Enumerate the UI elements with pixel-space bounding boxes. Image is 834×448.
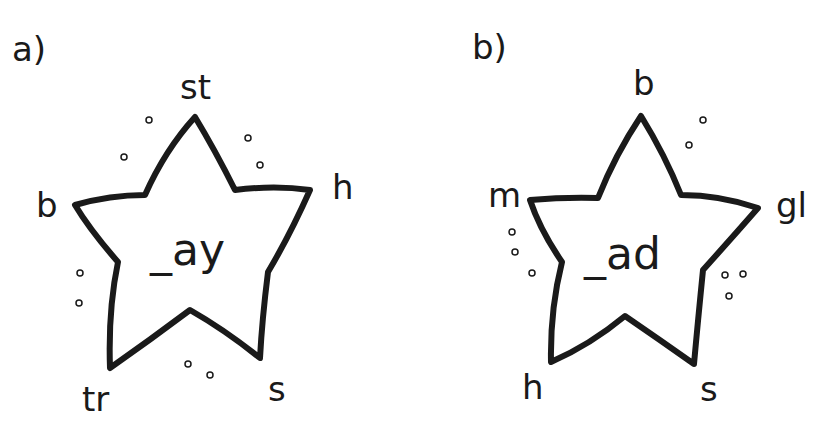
puzzle-a-label: a): [12, 32, 46, 66]
onset-a-right: h: [332, 170, 354, 204]
center-word-a: _ay: [150, 228, 225, 272]
onset-a-bottom-right: s: [268, 372, 286, 406]
puzzle-b-label: b): [472, 30, 507, 64]
onset-b-left: m: [488, 178, 521, 212]
onset-b-bottom-left: h: [522, 370, 544, 404]
center-word-b: _ad: [584, 232, 661, 276]
onset-b-right: gl: [776, 188, 807, 222]
onset-a-top: st: [180, 70, 211, 104]
onset-a-bottom-left: tr: [82, 382, 109, 416]
onset-a-left: b: [36, 188, 58, 222]
onset-b-bottom-right: s: [700, 372, 718, 406]
onset-b-top: b: [633, 66, 655, 100]
